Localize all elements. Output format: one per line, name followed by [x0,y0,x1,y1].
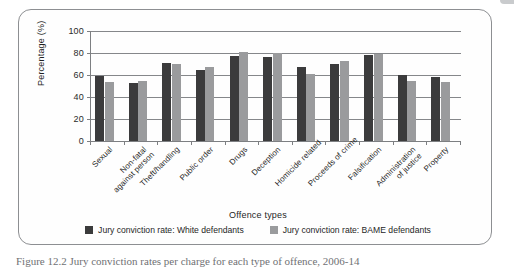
bar-group [326,31,360,141]
bar-white-defendants [162,63,171,141]
bar-bame-defendants [138,81,147,142]
bar-group [259,31,293,141]
legend-swatch-bame-defendants [270,226,278,234]
bar-group [226,31,260,141]
bar-bame-defendants [172,64,181,141]
y-axis-tick-label: 80 [74,48,84,58]
bar-bame-defendants [105,82,114,141]
x-axis-line [90,141,460,142]
bar-bame-defendants [306,74,315,141]
bar-bame-defendants [205,67,214,141]
bar-white-defendants [263,57,272,141]
legend-label-white-defendants: Jury conviction rate: White defendants [98,225,244,235]
bar-white-defendants [398,75,407,141]
bar-group [192,31,226,141]
legend-swatch-white-defendants [85,226,93,234]
bar-group [91,31,125,141]
x-axis-tick-labels: SexualNon-fatal against personTheft/hand… [90,145,470,207]
bar-group [360,31,394,141]
bar-white-defendants [196,70,205,142]
bar-white-defendants [129,83,138,141]
bar-bame-defendants [407,81,416,142]
y-axis-tick-label: 0 [79,136,84,146]
page-corner-mark [500,0,514,4]
y-axis-tick-label: 40 [74,92,84,102]
bar-group [293,31,327,141]
bar-group [394,31,428,141]
bar-bame-defendants [374,54,383,141]
bar-bame-defendants [239,52,248,141]
bar-group [125,31,159,141]
y-axis-tick-label: 100 [68,26,84,36]
bars-layer [91,31,461,141]
bar-bame-defendants [340,61,349,141]
bar-white-defendants [364,55,373,141]
bar-white-defendants [297,67,306,141]
bar-group [427,31,461,141]
bar-white-defendants [230,56,239,141]
bar-group [158,31,192,141]
figure-page: Percentage (%) 020406080100 SexualNon-fa… [0,0,516,279]
legend-item-white-defendants: Jury conviction rate: White defendants [85,225,244,235]
chart-legend: Jury conviction rate: White defendants J… [0,225,516,235]
figure-caption: Figure 12.2 Jury conviction rates per ch… [16,255,508,267]
legend-item-bame-defendants: Jury conviction rate: BAME defendants [270,225,431,235]
x-axis-title: Offence types [0,210,516,220]
y-axis-tick-label: 20 [74,114,84,124]
bar-white-defendants [431,77,440,141]
y-axis-tick-label: 60 [74,70,84,80]
bar-white-defendants [95,76,104,141]
plot-area: 020406080100 [90,31,460,141]
bar-bame-defendants [273,53,282,141]
bar-bame-defendants [441,82,450,141]
y-axis-title: Percentage (%) [36,21,46,86]
bar-white-defendants [330,64,339,141]
legend-label-bame-defendants: Jury conviction rate: BAME defendants [283,225,431,235]
